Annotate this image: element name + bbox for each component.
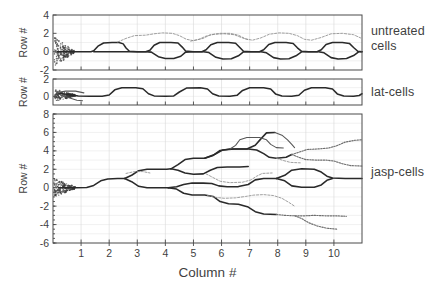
y-tick-label: 4: [43, 144, 49, 156]
panel-untreated-cells: -2024Row #: [17, 9, 362, 76]
trace-branch-dn-1a: [168, 188, 276, 215]
seed-point: [56, 180, 57, 181]
seed-point: [58, 96, 59, 97]
y-axis-title: Row #: [17, 163, 29, 193]
seed-point: [60, 60, 62, 62]
seed-point: [56, 56, 57, 57]
seed-point: [60, 53, 62, 55]
seed-point: [57, 189, 59, 191]
y-tick-label: 2: [43, 73, 49, 85]
seed-point: [64, 184, 65, 185]
seed-point: [55, 184, 56, 185]
trace-faint-spur-3: [126, 172, 150, 174]
trace-right-lens-a: [276, 169, 362, 179]
x-tick-label: 4: [162, 247, 168, 259]
seed-point: [54, 38, 55, 39]
trace-faint-spur-8: [276, 158, 300, 163]
seed-point: [62, 190, 63, 191]
seed-point: [63, 59, 65, 61]
trace-right-lower-2: [295, 216, 337, 229]
y-tick-label: 2: [43, 163, 49, 175]
y-axis-title: Row #: [17, 27, 29, 57]
y-tick-label: -6: [40, 237, 49, 249]
y-tick-label: 4: [43, 9, 49, 21]
seed-point: [65, 45, 66, 46]
panel-label-jasp: jasp-cells: [371, 165, 424, 180]
seed-point: [60, 183, 61, 184]
x-tick-label: 3: [134, 247, 140, 259]
seed-point: [58, 194, 59, 195]
trace-mid-faint-loop-low: [208, 195, 295, 207]
trace-right-lens-b: [276, 179, 332, 188]
seed-point: [60, 192, 61, 193]
y-tick-label: -2: [40, 200, 49, 212]
seed-point: [58, 50, 59, 51]
seed-point: [55, 37, 56, 38]
seed-point: [57, 53, 59, 55]
seed-point: [54, 40, 55, 41]
seed-point: [56, 193, 57, 194]
seed-point: [54, 180, 56, 182]
seed-point: [55, 194, 57, 196]
seed-point: [63, 99, 64, 100]
seed-point: [59, 189, 60, 190]
seed-point: [56, 62, 57, 63]
y-tick-label: 2: [43, 27, 49, 39]
seed-point: [65, 97, 66, 98]
x-tick-label: 5: [191, 247, 197, 259]
seed-point: [72, 189, 73, 190]
seed-point: [60, 47, 61, 48]
x-tick-label: 8: [275, 247, 281, 259]
panel-lat-cells: 02Row #: [17, 73, 362, 107]
seed-point: [54, 49, 55, 50]
seed-point: [60, 43, 61, 44]
seed-point: [61, 50, 62, 51]
seed-point: [70, 185, 72, 187]
seed-point: [56, 100, 57, 101]
seed-point: [55, 64, 56, 65]
x-tick-label: 9: [303, 247, 309, 259]
y-axis-title: Row #: [17, 77, 29, 107]
seed-point: [68, 185, 69, 186]
trace-mid-faint-loop: [206, 173, 272, 183]
seed-point: [58, 184, 59, 185]
seed-point: [55, 52, 56, 53]
seed-point: [60, 98, 61, 99]
seed-point: [61, 185, 62, 186]
seed-point: [69, 49, 70, 50]
seed-point: [71, 189, 72, 190]
seed-point: [57, 99, 59, 101]
trace-upper-right-1: [292, 140, 362, 155]
trace-lower-lobe: [94, 52, 362, 59]
seed-point: [61, 181, 62, 182]
seed-point: [59, 181, 60, 182]
seed-point: [58, 45, 60, 47]
figure-root: -2024Row #02Row #-6-4-20246812345678910R…: [0, 0, 448, 293]
y-tick-label: 0: [43, 90, 49, 102]
x-tick-label: 10: [328, 247, 340, 259]
trace-main-trunk: [57, 43, 362, 52]
trace-branch-dn-1: [125, 179, 169, 188]
seed-point: [57, 55, 58, 56]
seed-point: [61, 58, 62, 59]
seed-point: [64, 97, 65, 98]
seed-point: [62, 49, 63, 50]
seed-point: [60, 44, 61, 45]
seed-point: [63, 55, 64, 56]
seed-point: [61, 55, 62, 56]
seed-point: [65, 56, 67, 58]
seed-point: [66, 190, 68, 192]
seed-point: [56, 179, 57, 180]
seed-point: [55, 98, 56, 99]
seed-point: [62, 42, 63, 43]
seed-point: [56, 60, 58, 62]
seed-point: [66, 54, 67, 55]
seed-point: [60, 48, 61, 49]
seed-point: [67, 56, 69, 58]
y-tick-label: 6: [43, 126, 49, 138]
panel-label-untreated: untreated cells: [371, 24, 425, 54]
seed-point: [56, 39, 58, 41]
seed-point: [67, 46, 69, 48]
seed-point: [55, 186, 56, 187]
y-tick-label: 0: [43, 181, 49, 193]
